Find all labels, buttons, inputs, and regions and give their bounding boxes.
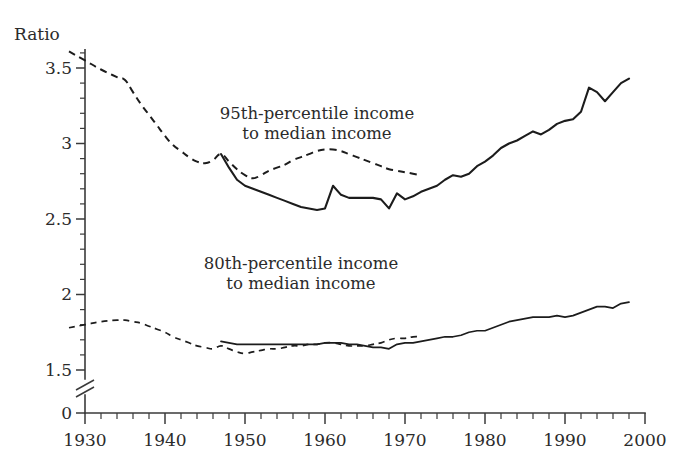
series-line-1 <box>221 79 629 210</box>
y-axis-tick-label: 2.5 <box>45 209 72 229</box>
x-axis-tick-label: 1960 <box>303 430 346 450</box>
x-axis-tick-label: 1990 <box>543 430 586 450</box>
upper-series-label: 95th-percentile incometo median income <box>220 104 414 143</box>
series-lines <box>69 51 629 353</box>
series-line-3 <box>221 302 629 349</box>
x-axis-tick-label: 1940 <box>143 430 186 450</box>
y-axis-tick-label: 2 <box>61 284 72 304</box>
y-axis-tick-label: 0 <box>61 403 72 423</box>
y-axis-tick-label: 3 <box>61 133 72 153</box>
upper-series-label-line1: 95th-percentile income <box>220 104 414 123</box>
y-axis-tick-label: 3.5 <box>45 58 72 78</box>
chart-container: 3.532.521.501930194019501960197019801990… <box>0 0 679 466</box>
lower-series-label-line2: to median income <box>226 274 375 293</box>
y-axis-title: Ratio <box>14 24 60 44</box>
x-axis-tick-label: 1970 <box>383 430 426 450</box>
series-annotations: 95th-percentile incometo median income80… <box>204 104 414 292</box>
x-axis-tick-label: 1950 <box>223 430 266 450</box>
x-axis-tick-label: 1930 <box>63 430 106 450</box>
series-line-2 <box>69 320 421 353</box>
upper-series-label-line2: to median income <box>242 124 391 143</box>
lower-series-label: 80th-percentile incometo median income <box>204 254 398 293</box>
lower-series-label-line1: 80th-percentile income <box>204 254 398 273</box>
y-axis-tick-label: 1.5 <box>45 360 72 380</box>
x-axis-tick-label: 1980 <box>463 430 506 450</box>
income-ratio-line-chart: 3.532.521.501930194019501960197019801990… <box>0 0 679 466</box>
x-axis-tick-label: 2000 <box>623 430 666 450</box>
